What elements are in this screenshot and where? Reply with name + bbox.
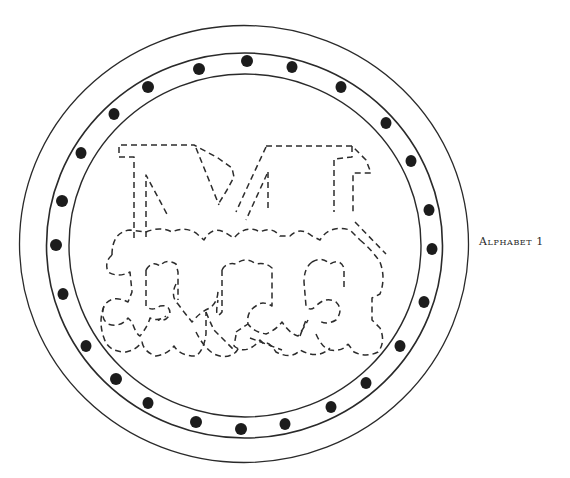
outer-ring	[20, 26, 469, 463]
middle-ring	[47, 53, 443, 438]
dot-ring	[50, 55, 438, 435]
serif-m-outline	[119, 145, 386, 254]
pattern-caption: Alphabet 1	[479, 235, 544, 248]
bubble-letters-outline	[101, 228, 383, 356]
inner-ring	[69, 74, 421, 417]
